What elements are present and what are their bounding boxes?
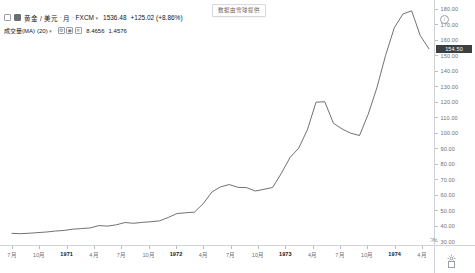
time-tick: [367, 246, 368, 249]
price-tick-label: 160.00: [441, 37, 459, 43]
indicator-chevron-down-icon[interactable]: ▾: [49, 28, 52, 34]
tick-dash: [435, 40, 438, 41]
price-change: +125.02 (+8.86%): [131, 14, 183, 21]
time-tick-label: 10月: [361, 251, 373, 259]
time-tick-label: 4月: [417, 251, 426, 259]
time-tick-label: 7月: [7, 251, 16, 259]
time-tick: [149, 246, 150, 249]
time-tick-label: 4月: [89, 251, 98, 259]
time-tick: [121, 246, 122, 249]
tick-dash: [435, 210, 438, 211]
time-tick-label: 1972: [170, 251, 183, 257]
instrument-name[interactable]: 黄金 / 美元: [24, 13, 58, 23]
indicator-value-1: 8.4656: [86, 28, 104, 34]
tick-dash: [435, 102, 438, 103]
price-tick-label: 60.00: [441, 192, 456, 198]
time-tick: [39, 246, 40, 249]
price-tick-label: 50.00: [441, 208, 456, 214]
price-tick: 110.00: [435, 113, 475, 122]
tick-dash: [435, 148, 438, 149]
price-tick: 180.00: [435, 5, 475, 14]
price-tick: 120.00: [435, 98, 475, 107]
info-icon[interactable]: i: [440, 15, 449, 24]
time-tick-label: 10月: [33, 251, 45, 259]
chart-legend: 黄金 / 美元 · 月 · FXCM ▾ 1536.48 +125.02 (+8…: [4, 12, 183, 36]
eye-icon[interactable]: [14, 14, 21, 21]
axis-divider: [434, 246, 435, 273]
price-axis[interactable]: i 180.00170.00160.00150.00140.00130.0012…: [434, 0, 475, 245]
time-tick-label: 1973: [279, 251, 292, 257]
price-tick: 50.00: [435, 206, 475, 215]
price-tick-label: 150.00: [441, 53, 459, 59]
price-tick-label: 40.00: [441, 223, 456, 229]
price-tick-label: 90.00: [441, 146, 456, 152]
chart-plot-area[interactable]: [0, 0, 435, 245]
time-tick-label: 1971: [60, 251, 73, 257]
tick-dash: [435, 226, 438, 227]
indicator-name[interactable]: 成交量(MA): [4, 26, 35, 35]
interval-label[interactable]: 月: [63, 13, 70, 23]
price-tick: 40.00: [435, 222, 475, 231]
time-tick-label: 4月: [308, 251, 317, 259]
price-tick-label: 70.00: [441, 177, 456, 183]
price-tick-label: 140.00: [441, 68, 459, 74]
current-price-badge: 154.50: [436, 45, 472, 53]
price-tick: 80.00: [435, 160, 475, 169]
time-tick-label: 7月: [117, 251, 126, 259]
price-tick: 140.00: [435, 67, 475, 76]
exchange-label[interactable]: FXCM: [76, 14, 94, 21]
tick-dash: [435, 55, 438, 56]
tick-dash: [435, 133, 438, 134]
price-tick-label: 30.00: [441, 239, 456, 245]
data-source-pill[interactable]: 数据由雪球提供: [212, 4, 266, 17]
price-tick: 100.00: [435, 129, 475, 138]
tick-dash: [435, 179, 438, 180]
last-price: 1536.48: [103, 14, 127, 21]
time-tick: [395, 246, 396, 249]
time-tick: [231, 246, 232, 249]
tick-dash: [435, 24, 438, 25]
tick-dash: [435, 71, 438, 72]
tick-dash: [435, 117, 438, 118]
tick-dash: [435, 86, 438, 87]
settings-glyph: ⚙: [59, 28, 63, 33]
price-line: [12, 11, 429, 234]
chart-type-icon: [4, 14, 11, 21]
price-tick-label: 100.00: [441, 130, 459, 136]
time-axis[interactable]: 7月10月19714月7月10月19724月7月10月19734月7月10月19…: [0, 245, 475, 273]
remove-glyph: ✕: [76, 28, 80, 33]
time-tick: [422, 246, 423, 249]
chevron-down-icon[interactable]: ▾: [96, 15, 99, 21]
settings-control-icon[interactable]: ⚙: [58, 27, 65, 34]
time-tick: [12, 246, 13, 249]
price-tick: 90.00: [435, 144, 475, 153]
indicator-params[interactable]: (20): [37, 28, 48, 34]
fullscreen-icon[interactable]: [448, 261, 455, 268]
visibility-glyph: ◉: [68, 28, 72, 33]
current-price-label: 154.50: [445, 46, 463, 52]
price-line-svg: [0, 0, 435, 245]
scroll-to-realtime-icon[interactable]: ≫: [430, 236, 437, 243]
tick-dash: [435, 164, 438, 165]
info-glyph: i: [444, 17, 445, 22]
time-tick: [94, 246, 95, 249]
indicator-value-2: 1.4576: [109, 28, 127, 34]
gear-icon[interactable]: [447, 249, 456, 258]
time-tick-label: 1974: [388, 251, 401, 257]
tick-dash: [435, 9, 438, 10]
indicator-controls: ⚙ ◉ ✕: [58, 27, 84, 34]
time-tick: [285, 246, 286, 249]
price-tick: 70.00: [435, 175, 475, 184]
time-tick-label: 10月: [252, 251, 264, 259]
time-tick-label: 7月: [335, 251, 344, 259]
price-tick: 60.00: [435, 191, 475, 200]
symbol-legend-row[interactable]: 黄金 / 美元 · 月 · FXCM ▾ 1536.48 +125.02 (+8…: [4, 12, 183, 23]
remove-control-icon[interactable]: ✕: [75, 27, 82, 34]
time-tick: [258, 246, 259, 249]
price-tick-label: 130.00: [441, 84, 459, 90]
time-tick: [67, 246, 68, 249]
indicator-legend-row[interactable]: 成交量(MA) (20) ▾ ⚙ ◉ ✕ 8.4656 1.4576: [4, 25, 183, 36]
visibility-control-icon[interactable]: ◉: [66, 27, 73, 34]
price-tick-label: 80.00: [441, 161, 456, 167]
